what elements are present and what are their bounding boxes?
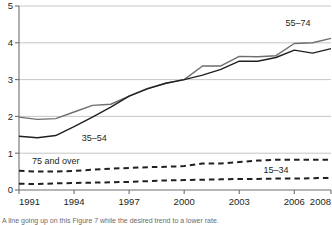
y-tick-label-3: 3: [8, 74, 13, 85]
y-tick-label-5: 5: [8, 0, 13, 11]
x-tick-label-2003: 2003: [229, 196, 250, 207]
y-tick-label-4: 4: [8, 37, 13, 48]
x-tick-label-1997: 1997: [119, 196, 140, 207]
series-label-35–54: 35–54: [82, 133, 107, 143]
line-chart: 012345199119941997200020032006200855–743…: [0, 0, 332, 225]
series-label-75-and-over: 75 and over: [32, 156, 80, 166]
x-tick-label-2000: 2000: [174, 196, 195, 207]
chart-canvas: 012345199119941997200020032006200855–743…: [0, 0, 332, 213]
y-tick-label-1: 1: [8, 148, 13, 159]
y-tick-label-0: 0: [8, 184, 13, 195]
series-line-15–34: [19, 178, 331, 184]
series-label-55–74: 55–74: [285, 18, 310, 28]
series-line-55–74: [19, 38, 331, 119]
series-label-15–34: 15–34: [263, 165, 288, 175]
chart-footnote: A line going up on this Figure 7 while t…: [2, 217, 332, 225]
x-tick-label-2006: 2006: [284, 196, 305, 207]
x-tick-label-1994: 1994: [63, 196, 84, 207]
x-tick-label-1991: 1991: [19, 196, 40, 207]
y-tick-label-2: 2: [8, 111, 13, 122]
series-line-35–54: [19, 49, 331, 138]
x-tick-label-2008: 2008: [310, 196, 331, 207]
